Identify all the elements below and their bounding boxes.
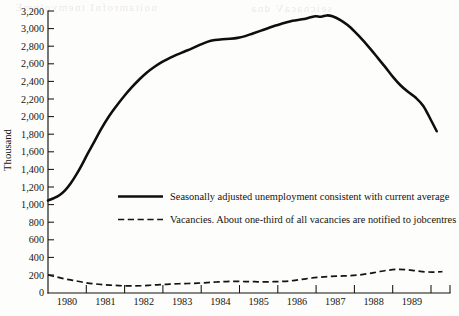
y-tick-label: 0 (39, 287, 44, 298)
y-axis-ticks (48, 11, 54, 275)
y-tick-label: 400 (29, 252, 44, 263)
x-axis: 1980 1981 1982 1983 1984 1985 1986 1987 … (48, 285, 450, 307)
y-tick-label: 2,800 (21, 41, 44, 52)
y-tick-label: 1,200 (21, 182, 44, 193)
x-tick-label: 1983 (172, 296, 192, 307)
y-tick-label: 2,000 (21, 111, 44, 122)
y-axis-title: Thousand (2, 128, 13, 170)
y-tick-label: 1,800 (21, 129, 44, 140)
y-tick-label: 200 (29, 270, 44, 281)
y-axis: 3,200 3,000 2,800 2,600 2,400 2,200 2,00… (2, 6, 54, 299)
y-tick-label: 3,200 (21, 6, 44, 17)
y-tick-label: 1,000 (21, 199, 44, 210)
y-tick-label: 2,200 (21, 94, 44, 105)
chart-legend: Seasonally adjusted unemployment consist… (118, 191, 456, 225)
x-tick-label: 1988 (363, 296, 383, 307)
x-tick-label: 1984 (210, 296, 230, 307)
y-tick-label: 1,400 (21, 164, 44, 175)
x-tick-label: 1987 (325, 296, 345, 307)
vacancies-series-line (48, 269, 442, 286)
legend-label-vacancies: Vacancies. About one-third of all vacanc… (170, 214, 456, 225)
unemployment-series-line (48, 15, 437, 200)
unemployment-vacancies-line-chart: 3,200 3,000 2,800 2,600 2,400 2,200 2,00… (0, 0, 459, 316)
x-tick-label: 1986 (287, 296, 307, 307)
y-tick-label: 800 (29, 217, 44, 228)
x-tick-label: 1981 (95, 296, 115, 307)
y-tick-label: 600 (29, 234, 44, 245)
x-tick-label: 1980 (57, 296, 77, 307)
x-tick-label: 1989 (402, 296, 422, 307)
y-axis-tick-labels: 3,200 3,000 2,800 2,600 2,400 2,200 2,00… (21, 6, 44, 299)
x-axis-tick-labels: 1980 1981 1982 1983 1984 1985 1986 1987 … (57, 296, 422, 307)
x-tick-label: 1985 (249, 296, 269, 307)
legend-label-unemployment: Seasonally adjusted unemployment consist… (170, 191, 450, 202)
chart-page: noitamrofnI tnemyolpmE seicnacaV dna (0, 0, 459, 316)
y-tick-label: 2,600 (21, 58, 44, 69)
x-tick-label: 1982 (134, 296, 154, 307)
y-tick-label: 1,600 (21, 146, 44, 157)
y-tick-label: 3,000 (21, 23, 44, 34)
y-tick-label: 2,400 (21, 76, 44, 87)
